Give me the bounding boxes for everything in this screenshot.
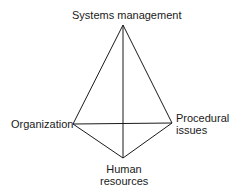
label-line: Human: [100, 163, 148, 175]
label-line: Procedural: [176, 112, 229, 124]
edge-top-left: [73, 25, 123, 124]
edge-left-right: [73, 123, 172, 124]
label-organization: Organization: [11, 118, 73, 130]
label-human-resources: Human resources: [100, 163, 148, 187]
edge-left-bottom: [73, 124, 123, 158]
label-procedural-issues: Procedural issues: [176, 112, 229, 136]
edge-right-bottom: [123, 123, 172, 158]
tetrahedron-diagram: Systems management Organization Procedur…: [0, 0, 237, 190]
edge-top-right: [123, 25, 172, 123]
tetrahedron-lines: [0, 0, 237, 190]
label-line: issues: [176, 124, 229, 136]
label-systems-management: Systems management: [72, 9, 181, 21]
label-line: resources: [100, 175, 148, 187]
